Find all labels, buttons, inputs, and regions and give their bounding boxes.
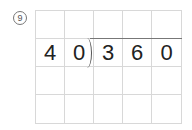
grid-cell[interactable]	[94, 11, 123, 39]
grid-cell[interactable]	[36, 95, 65, 123]
dividend-digit: 0	[152, 39, 181, 67]
division-bracket-icon	[82, 38, 92, 68]
division-bracket-line	[90, 38, 182, 39]
dividend-digit: 3	[94, 39, 123, 67]
grid-cell[interactable]	[123, 11, 152, 39]
grid-cell[interactable]	[94, 67, 123, 95]
grid-cell[interactable]	[152, 11, 181, 39]
grid-cell[interactable]	[94, 95, 123, 123]
grid-cell[interactable]	[65, 95, 94, 123]
grid-cell[interactable]	[123, 67, 152, 95]
grid-cell[interactable]	[65, 11, 94, 39]
grid-cell[interactable]	[36, 67, 65, 95]
problem-number: 9	[13, 11, 27, 25]
grid-cell[interactable]	[36, 11, 65, 39]
grid-cell[interactable]	[152, 95, 181, 123]
grid-cell[interactable]	[65, 67, 94, 95]
dividend-digit: 6	[123, 39, 152, 67]
long-division-grid: 4 0 3 6 0	[35, 10, 182, 124]
divisor-digit: 4	[36, 39, 65, 67]
grid-cell[interactable]	[152, 67, 181, 95]
grid-cell[interactable]	[123, 95, 152, 123]
